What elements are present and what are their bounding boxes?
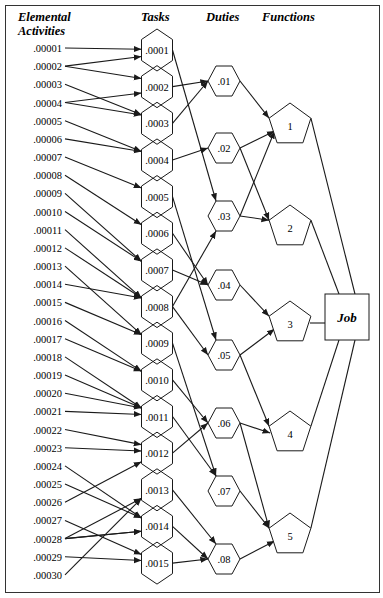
activity-label: .00011 bbox=[34, 225, 63, 236]
duty-label: .05 bbox=[217, 350, 230, 361]
duty-function-arrow bbox=[240, 285, 269, 316]
task-node: .0011 bbox=[142, 396, 173, 438]
activity-label: .00013 bbox=[33, 261, 62, 272]
elemental-activities-column: .00001.00002.00003.00004.00005.00006.000… bbox=[33, 43, 63, 581]
header-elemental: Elemental bbox=[17, 10, 71, 24]
duty-function-arrow bbox=[240, 131, 275, 148]
activity-task-arrow bbox=[65, 157, 142, 188]
activity-task-arrow bbox=[65, 498, 142, 575]
activity-label: .00017 bbox=[33, 334, 62, 345]
task-node: .0015 bbox=[142, 542, 173, 584]
header-functions: Functions bbox=[261, 10, 315, 24]
activity-task-arrow bbox=[65, 230, 142, 298]
task-label: .0004 bbox=[145, 155, 169, 166]
task-duty-arrow bbox=[173, 423, 209, 453]
task-duty-arrow bbox=[173, 559, 209, 563]
task-duty-arrow bbox=[173, 81, 209, 123]
tasks-column: .0001.0002.0003.0004.0005.0006.0007.0008… bbox=[142, 29, 173, 584]
duty-label: .03 bbox=[217, 211, 230, 222]
duty-function-arrow bbox=[240, 329, 275, 355]
activity-label: .00019 bbox=[33, 370, 62, 381]
task-node: .0013 bbox=[142, 469, 173, 511]
function-node: 1 bbox=[269, 103, 311, 143]
task-node: .0004 bbox=[142, 139, 173, 181]
task-label: .0013 bbox=[145, 485, 169, 496]
task-node: .0002 bbox=[142, 66, 173, 108]
task-label: .0001 bbox=[145, 45, 169, 56]
task-duty-arrow bbox=[173, 380, 209, 423]
activity-label: .00003 bbox=[33, 79, 62, 90]
function-label: 5 bbox=[287, 531, 292, 542]
job-hierarchy-diagram: Elemental Activities Tasks Duties Functi… bbox=[0, 0, 383, 598]
task-node: .0001 bbox=[142, 29, 173, 71]
task-duty-arrow bbox=[173, 81, 209, 87]
activity-label: .00027 bbox=[33, 515, 62, 526]
activity-task-arrow bbox=[65, 375, 142, 408]
activity-task-arrow bbox=[65, 139, 142, 152]
task-duty-arrow bbox=[173, 490, 217, 544]
task-node: .0014 bbox=[142, 505, 173, 547]
functions-column: 12345 bbox=[269, 103, 311, 553]
task-node: .0006 bbox=[142, 212, 173, 254]
duty-label: .02 bbox=[217, 143, 230, 154]
activity-task-arrow bbox=[65, 84, 142, 114]
task-label: .0008 bbox=[145, 302, 169, 313]
activity-label: .00016 bbox=[33, 316, 62, 327]
job-label: Job bbox=[336, 310, 357, 325]
activity-label: .00002 bbox=[33, 61, 62, 72]
activity-label: .00007 bbox=[33, 152, 62, 163]
task-label: .0012 bbox=[145, 448, 169, 459]
activity-label: .00018 bbox=[33, 352, 62, 363]
activity-task-arrow bbox=[65, 212, 142, 262]
duty-node: .01 bbox=[208, 66, 240, 96]
function-job-line bbox=[311, 220, 339, 294]
activity-label: .00029 bbox=[33, 552, 62, 563]
activity-task-arrow bbox=[65, 448, 142, 451]
activity-task-arrow bbox=[65, 248, 142, 298]
function-job-line bbox=[311, 340, 339, 426]
activity-task-arrow bbox=[65, 557, 142, 561]
duty-node: .06 bbox=[208, 408, 240, 438]
activity-task-arrow bbox=[65, 339, 142, 372]
activity-task-arrow bbox=[65, 462, 142, 503]
connector-lines bbox=[65, 48, 355, 575]
duty-label: .06 bbox=[217, 418, 230, 429]
duty-function-arrow bbox=[240, 355, 269, 426]
activity-label: .00026 bbox=[33, 497, 62, 508]
task-label: .0006 bbox=[145, 228, 169, 239]
activity-label: .00009 bbox=[33, 188, 62, 199]
task-label: .0002 bbox=[145, 82, 169, 93]
function-label: 4 bbox=[287, 429, 293, 440]
task-node: .0003 bbox=[142, 102, 173, 144]
task-node: .0010 bbox=[142, 359, 173, 401]
header-activities: Activities bbox=[17, 24, 65, 38]
task-node: .0008 bbox=[142, 286, 173, 328]
job-node: Job bbox=[325, 294, 369, 340]
duty-node: .03 bbox=[208, 201, 240, 231]
task-node: .0005 bbox=[142, 176, 173, 218]
activity-task-arrow bbox=[65, 48, 142, 49]
duty-label: .01 bbox=[217, 76, 230, 87]
function-node: 3 bbox=[269, 301, 311, 341]
activity-task-arrow bbox=[65, 193, 142, 261]
task-duty-arrow bbox=[173, 343, 217, 476]
activity-task-arrow bbox=[65, 66, 142, 78]
activity-task-arrow bbox=[65, 411, 142, 414]
activity-task-arrow bbox=[65, 121, 142, 152]
function-node: 5 bbox=[269, 513, 311, 553]
activity-label: .00014 bbox=[33, 279, 63, 290]
duty-function-arrow bbox=[240, 491, 269, 528]
activity-label: .00015 bbox=[33, 297, 62, 308]
duty-function-arrow bbox=[240, 148, 269, 220]
header-tasks: Tasks bbox=[141, 10, 170, 24]
activity-label: .00030 bbox=[33, 570, 62, 581]
task-duty-arrow bbox=[173, 526, 209, 559]
activity-label: .00012 bbox=[33, 243, 62, 254]
function-node: 2 bbox=[269, 205, 311, 245]
task-label: .0003 bbox=[145, 118, 169, 129]
activity-label: .00008 bbox=[33, 170, 62, 181]
task-label: .0010 bbox=[145, 375, 169, 386]
duty-function-arrow bbox=[240, 216, 269, 220]
task-label: .0007 bbox=[145, 265, 169, 276]
task-node: .0012 bbox=[142, 432, 173, 474]
